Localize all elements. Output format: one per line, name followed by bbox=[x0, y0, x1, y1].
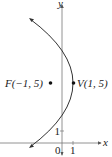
y-tick-label: 1 bbox=[55, 125, 61, 137]
vertex-label: V(1, 5) bbox=[77, 77, 108, 90]
focus-point bbox=[49, 81, 53, 85]
y-axis-down-arrow bbox=[61, 152, 64, 156]
origin-label: 0 bbox=[55, 144, 61, 156]
y-axis-label: y bbox=[57, 0, 63, 9]
vertex-point bbox=[72, 81, 76, 85]
parabola-diagram: F(−1, 5) V(1, 5) y x 0 1 1 bbox=[0, 0, 112, 157]
focus-label: F(−1, 5) bbox=[4, 77, 43, 90]
x-axis-label: x bbox=[102, 136, 108, 148]
x-tick-label: 1 bbox=[70, 144, 76, 156]
